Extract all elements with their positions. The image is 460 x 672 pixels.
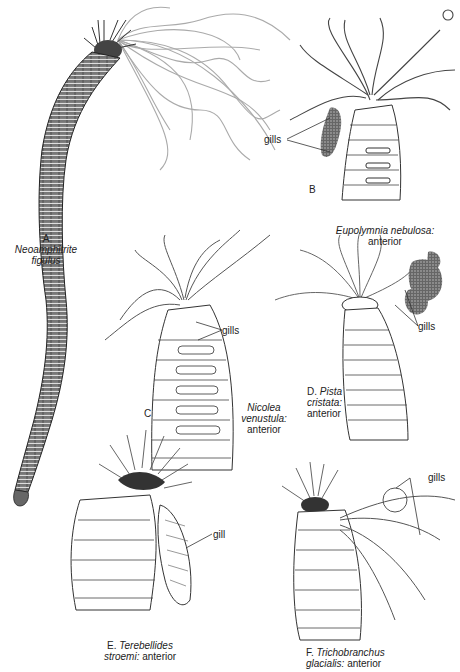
figure-e-gill-label: gill	[213, 529, 225, 540]
figure-f-worm	[282, 462, 455, 640]
figure-e-species: stroemi:	[104, 651, 140, 662]
figure-b-worm	[287, 10, 455, 200]
figure-c-gills-label: gills	[222, 325, 239, 336]
figure-d-qualifier: anterior	[307, 408, 342, 419]
figure-a-species: figulus	[6, 255, 86, 266]
figure-b-caption: Eupolymnia nebulosa: anterior	[320, 225, 450, 247]
terebellid-worm-plate: A Neoamphitrite figulus gills B Eupolymn…	[0, 0, 460, 672]
figure-c-caption: Nicolea venustula: anterior	[232, 402, 296, 435]
figure-e-letter: E.	[107, 640, 116, 651]
figure-c-genus: Nicolea	[232, 402, 296, 413]
illustration-artwork	[0, 0, 460, 672]
figure-f-species: glacialis:	[306, 658, 344, 669]
figure-c-letter: C	[144, 408, 151, 419]
figure-c-species: venustula:	[232, 413, 296, 424]
figure-f-caption: F. Trichobranchus glacialis: anterior	[306, 647, 385, 669]
figure-f-genus: Trichobranchus	[317, 647, 385, 658]
figure-f-gills-label: gills	[428, 472, 445, 483]
figure-a-caption: A Neoamphitrite figulus	[6, 233, 86, 266]
figure-f-qualifier: anterior	[347, 658, 381, 669]
figure-b-qualifier: anterior	[320, 236, 450, 247]
figure-d-gills-label: gills	[418, 321, 435, 332]
figure-e-qualifier: anterior	[142, 651, 176, 662]
figure-b-gills-label: gills	[264, 134, 281, 145]
figure-a-genus: Neoamphitrite	[6, 244, 86, 255]
figure-d-genus: Pista	[320, 386, 342, 397]
figure-e-genus: Terebellides	[119, 640, 173, 651]
figure-d-letter: D.	[307, 386, 317, 397]
figure-d-caption: D. Pista cristata: anterior	[307, 386, 342, 419]
figure-d-species: cristata:	[307, 397, 342, 408]
figure-b-letter: B	[309, 184, 316, 195]
figure-b-species: nebulosa:	[391, 225, 434, 236]
figure-f-letter: F.	[306, 647, 314, 658]
figure-e-caption: E. Terebellides stroemi: anterior	[90, 640, 190, 662]
figure-c-qualifier: anterior	[232, 424, 296, 435]
figure-d-worm	[275, 232, 442, 440]
figure-b-genus: Eupolymnia	[336, 225, 388, 236]
figure-a-letter: A	[6, 233, 86, 244]
